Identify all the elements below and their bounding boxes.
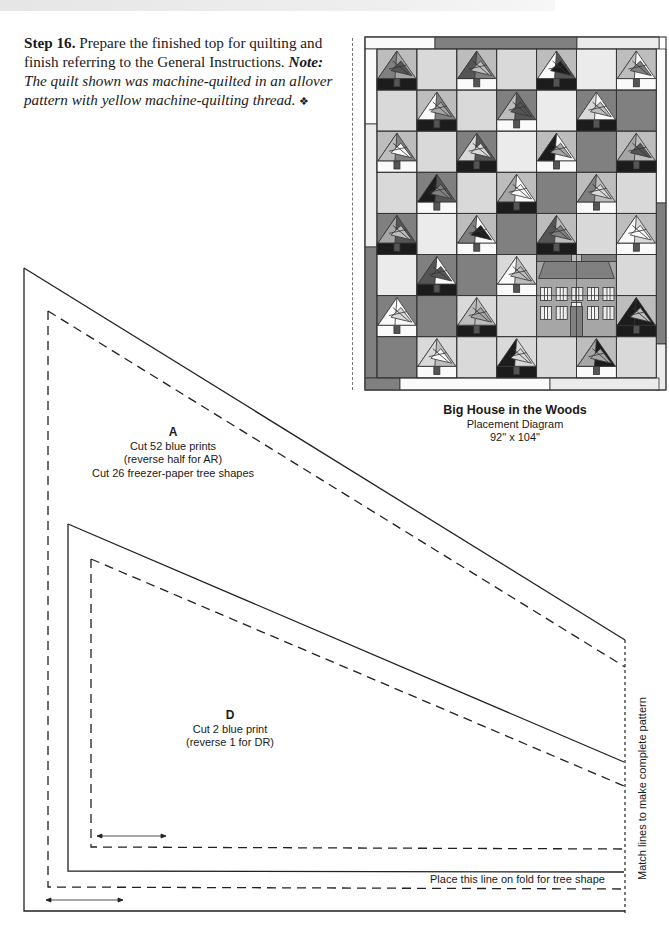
- piece-d-slant-seam-line: [91, 559, 624, 786]
- piece-a-letter: A: [78, 426, 268, 440]
- piece-d-cut-instruction: Cut 2 blue print: [160, 723, 300, 737]
- piece-d-cut-line: [68, 524, 624, 872]
- piece-d-seam-line: [91, 559, 624, 849]
- piece-a-freezer-note: Cut 26 freezer-paper tree shapes: [78, 467, 268, 481]
- piece-a-reverse-note: (reverse half for AR): [78, 453, 268, 467]
- grain-arrow-a: [46, 898, 123, 902]
- piece-a-cut-instruction: Cut 52 blue prints: [78, 440, 268, 454]
- piece-d-reverse-note: (reverse 1 for DR): [160, 736, 300, 750]
- fold-line-note: Place this line on fold for tree shape: [430, 873, 605, 885]
- piece-a-label: A Cut 52 blue prints (reverse half for A…: [78, 426, 268, 480]
- match-lines-note: Match lines to make complete pattern: [636, 697, 648, 880]
- piece-d-letter: D: [160, 709, 300, 723]
- piece-a-seam-line: [48, 311, 625, 889]
- piece-d-slant-cut-line: [68, 524, 624, 762]
- piece-a-cut-line: [24, 268, 625, 911]
- grain-arrow-d: [97, 834, 166, 838]
- piece-a-slant-seam-line: [48, 311, 625, 667]
- piece-d-label: D Cut 2 blue print (reverse 1 for DR): [160, 709, 300, 750]
